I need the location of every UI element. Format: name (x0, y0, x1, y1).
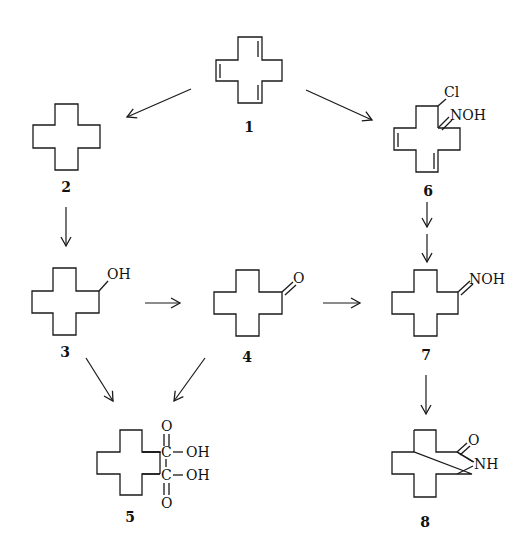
atom-c: C (161, 444, 172, 460)
atom-o: O (468, 432, 479, 448)
arrow-4-to-5 (174, 358, 205, 401)
compound-6: Cl NOH 6 (394, 84, 486, 199)
reaction-scheme: 1 2 Cl NOH 6 OH 3 O 4 NOH 7 (0, 0, 532, 547)
atom-oh: OH (186, 467, 210, 483)
compound-label-7: 7 (421, 347, 431, 363)
atom-oh: OH (186, 444, 210, 460)
compound-label-6: 6 (423, 183, 433, 199)
compound-label-2: 2 (61, 179, 71, 195)
compound-label-3: 3 (60, 344, 70, 360)
compound-5: C O OH C OH O 5 (97, 418, 210, 525)
atom-c: C (161, 467, 172, 483)
atom-o: O (161, 418, 172, 434)
atom-o: O (161, 495, 172, 511)
arrow-1-to-6 (306, 90, 372, 120)
compound-label-1: 1 (244, 119, 254, 135)
compound-8: O NH 8 (392, 430, 498, 530)
compound-label-4: 4 (242, 349, 252, 365)
compound-3: OH 3 (32, 266, 131, 360)
compound-4: O 4 (214, 270, 304, 365)
compound-label-8: 8 (420, 514, 430, 530)
compound-7: NOH 7 (392, 270, 505, 363)
atom-noh: NOH (450, 107, 486, 123)
arrow-1-to-2 (127, 89, 191, 117)
compound-label-5: 5 (125, 509, 135, 525)
atom-cl: Cl (444, 84, 460, 100)
atom-oh: OH (107, 266, 131, 282)
arrow-3-to-5 (86, 358, 113, 401)
compound-1: 1 (216, 37, 282, 135)
atom-noh: NOH (469, 271, 505, 287)
atom-o: O (293, 270, 304, 286)
compound-2: 2 (33, 104, 100, 195)
atom-nh: NH (474, 456, 498, 472)
